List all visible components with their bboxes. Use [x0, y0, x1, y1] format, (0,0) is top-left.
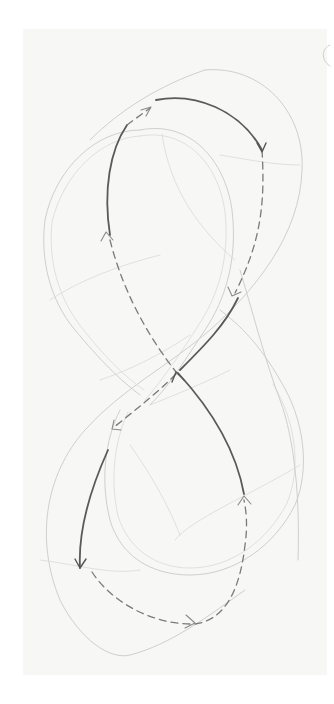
- arrowhead-icon: [101, 232, 113, 241]
- corner-mark: [323, 45, 330, 66]
- solid-path-lower-left: [80, 450, 108, 568]
- lower-loop-outer-edge: [105, 310, 304, 575]
- drawing-canvas: [0, 0, 334, 704]
- construction-line: [240, 270, 298, 560]
- outer-band-upper-left: [90, 70, 205, 140]
- solid-path-left-upper: [107, 125, 127, 235]
- construction-line: [175, 465, 300, 540]
- outer-band-outline: [46, 70, 302, 656]
- left-loop-outer-edge: [44, 130, 140, 395]
- arrowhead-icon: [228, 287, 241, 296]
- construction-line: [162, 134, 235, 260]
- dashed-path-center-down: [113, 374, 176, 428]
- construction-line: [130, 445, 180, 535]
- lower-loop-inner-edge: [114, 384, 295, 568]
- construction-line: [220, 155, 300, 165]
- solid-path-top-arc: [156, 98, 262, 150]
- construction-line: [50, 255, 160, 300]
- dashed-path-top-start: [127, 108, 150, 125]
- upper-loop-inner-edge: [140, 135, 226, 400]
- solid-path-center-rise: [180, 298, 238, 370]
- dashed-path-right-down: [235, 150, 263, 293]
- construction-line: [40, 560, 140, 571]
- solid-path-center-up: [178, 373, 244, 494]
- figure-eight-sketch: [0, 0, 334, 704]
